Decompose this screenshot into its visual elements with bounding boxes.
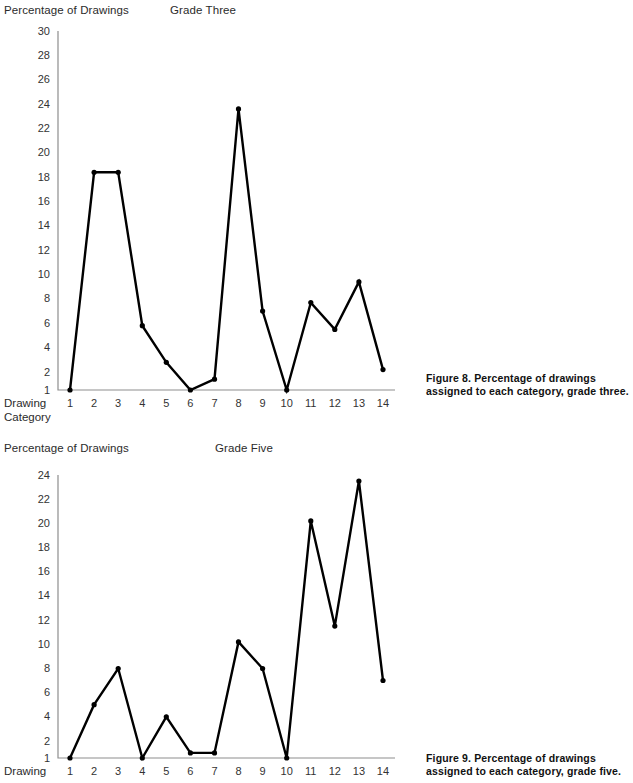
x-tick-label: 2 xyxy=(83,766,105,777)
data-point-marker xyxy=(92,702,97,707)
y-tick-label: 24 xyxy=(14,99,50,110)
x-tick-label: 3 xyxy=(107,398,129,409)
x-tick-label: 11 xyxy=(300,766,322,777)
axis-lines xyxy=(58,475,395,758)
data-point-marker xyxy=(284,755,289,760)
data-point-marker xyxy=(188,750,193,755)
data-line-grade-three xyxy=(70,109,383,390)
x-tick-label: 13 xyxy=(348,766,370,777)
data-point-marker xyxy=(380,367,385,372)
data-point-marker xyxy=(332,327,337,332)
data-point-marker xyxy=(67,387,72,392)
y-tick-label: 16 xyxy=(14,566,50,577)
data-point-marker xyxy=(140,755,145,760)
y-tick-label: 16 xyxy=(14,196,50,207)
y-tick-label: 2 xyxy=(14,367,50,378)
y-tick-label: 14 xyxy=(14,220,50,231)
x-tick-label: 9 xyxy=(252,766,274,777)
plot-area-grade-five: 1246810121416182022241234567891011121314… xyxy=(0,438,420,768)
axis-lines xyxy=(58,31,395,390)
x-tick-label: 3 xyxy=(107,766,129,777)
data-point-marker xyxy=(308,518,313,523)
data-point-marker xyxy=(332,624,337,629)
data-point-marker xyxy=(212,750,217,755)
y-tick-label: 8 xyxy=(14,663,50,674)
x-tick-label: 12 xyxy=(324,398,346,409)
x-tick-label: 10 xyxy=(276,398,298,409)
y-tick-label: 8 xyxy=(14,293,50,304)
y-tick-label: 4 xyxy=(14,342,50,353)
x-tick-label: 4 xyxy=(131,398,153,409)
x-tick-label: 8 xyxy=(228,766,250,777)
chart-canvas xyxy=(0,438,420,768)
data-point-marker xyxy=(356,478,361,483)
x-axis-title: Drawing Category xyxy=(4,397,51,424)
y-tick-label: 26 xyxy=(14,74,50,85)
y-tick-label: 20 xyxy=(14,518,50,529)
x-tick-label: 7 xyxy=(203,398,225,409)
y-tick-label: 24 xyxy=(14,470,50,481)
x-tick-label: 13 xyxy=(348,398,370,409)
y-tick-label: 18 xyxy=(14,542,50,553)
x-tick-label: 1 xyxy=(59,766,81,777)
data-point-marker xyxy=(260,309,265,314)
x-tick-label: 5 xyxy=(155,398,177,409)
x-tick-label: 4 xyxy=(131,766,153,777)
data-point-marker xyxy=(92,170,97,175)
y-tick-label: 6 xyxy=(14,687,50,698)
data-point-marker xyxy=(116,666,121,671)
data-point-marker xyxy=(212,377,217,382)
data-point-marker xyxy=(116,170,121,175)
data-point-marker xyxy=(188,387,193,392)
x-tick-label: 2 xyxy=(83,398,105,409)
y-tick-label: 20 xyxy=(14,147,50,158)
chart-canvas xyxy=(0,0,420,400)
x-tick-label: 14 xyxy=(372,766,394,777)
x-tick-label: 7 xyxy=(203,766,225,777)
data-point-marker xyxy=(164,714,169,719)
y-tick-label: 1 xyxy=(14,385,50,396)
x-axis-title: Drawing xyxy=(4,765,46,779)
x-tick-label: 8 xyxy=(228,398,250,409)
data-point-marker xyxy=(380,678,385,683)
y-tick-label: 6 xyxy=(14,318,50,329)
data-point-marker xyxy=(284,387,289,392)
figure-caption-9: Figure 9. Percentage of drawings assigne… xyxy=(426,752,632,778)
data-line-grade-five xyxy=(70,481,383,758)
y-tick-label: 12 xyxy=(14,245,50,256)
x-tick-label: 10 xyxy=(276,766,298,777)
data-point-marker xyxy=(260,666,265,671)
data-point-marker xyxy=(140,323,145,328)
x-tick-label: 6 xyxy=(179,766,201,777)
y-tick-label: 10 xyxy=(14,639,50,650)
y-tick-label: 1 xyxy=(14,753,50,764)
y-tick-label: 2 xyxy=(14,736,50,747)
y-tick-label: 12 xyxy=(14,615,50,626)
data-point-marker xyxy=(164,360,169,365)
y-tick-label: 30 xyxy=(14,26,50,37)
data-point-marker xyxy=(236,106,241,111)
y-tick-label: 22 xyxy=(14,123,50,134)
data-point-marker xyxy=(67,755,72,760)
y-tick-label: 22 xyxy=(14,494,50,505)
data-point-marker xyxy=(356,279,361,284)
x-tick-label: 12 xyxy=(324,766,346,777)
y-tick-label: 4 xyxy=(14,711,50,722)
x-tick-label: 9 xyxy=(252,398,274,409)
y-tick-label: 18 xyxy=(14,172,50,183)
y-tick-label: 28 xyxy=(14,50,50,61)
x-tick-label: 5 xyxy=(155,766,177,777)
plot-area-grade-three: 1246810121416182022242628301234567891011… xyxy=(0,0,420,400)
y-tick-label: 14 xyxy=(14,590,50,601)
x-tick-label: 11 xyxy=(300,398,322,409)
data-point-marker xyxy=(308,300,313,305)
figure-caption-8: Figure 8. Percentage of drawings assigne… xyxy=(426,372,632,398)
y-tick-label: 10 xyxy=(14,269,50,280)
x-tick-label: 1 xyxy=(59,398,81,409)
x-tick-label: 14 xyxy=(372,398,394,409)
data-point-marker xyxy=(236,639,241,644)
x-tick-label: 6 xyxy=(179,398,201,409)
